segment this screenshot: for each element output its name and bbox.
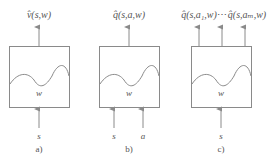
panel-caption: c)	[218, 144, 225, 154]
input-label-s: s	[219, 131, 223, 141]
input-label-s: s	[112, 131, 116, 141]
wave-curve-icon	[192, 66, 251, 86]
weight-label: w	[126, 88, 132, 98]
output-label-v-hat: v̂(s,w)	[27, 9, 52, 21]
output-ellipsis: ⋯	[217, 9, 227, 20]
panel-caption: a)	[36, 144, 43, 154]
weight-label: w	[36, 88, 42, 98]
approximator-box	[100, 47, 160, 108]
output-label-q-hat: q̂(s,a,w)	[113, 9, 146, 21]
approximator-box	[192, 47, 252, 108]
wave-curve-icon	[10, 66, 69, 86]
input-label-a: a	[141, 131, 146, 141]
panel-c: q̂(s,a₁,w) ⋯ q̂(s,aₘ,w) w s c)	[181, 9, 267, 154]
panel-a: v̂(s,w) w s a)	[10, 9, 70, 154]
weight-label: w	[218, 88, 224, 98]
output-label-q-hat-a1: q̂(s,a₁,w)	[181, 9, 217, 21]
panel-b: q̂(s,a,w) w s a b)	[100, 9, 160, 154]
function-approximator-diagram: v̂(s,w) w s a) q̂(s,a,w) w s a b) q̂(s,a…	[0, 0, 274, 162]
input-label-s: s	[37, 131, 41, 141]
output-label-q-hat-am: q̂(s,aₘ,w)	[228, 9, 267, 21]
panel-caption: b)	[125, 144, 133, 154]
wave-curve-icon	[100, 66, 159, 86]
approximator-box	[10, 47, 70, 108]
